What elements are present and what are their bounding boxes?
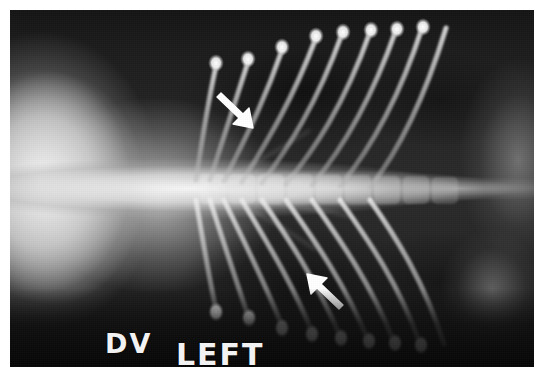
marker-dv: DV	[105, 328, 152, 359]
marker-left: LEFT	[176, 337, 265, 372]
radiograph-figure: DV LEFT down-right up-left DV	[0, 0, 543, 375]
film-grain	[10, 10, 534, 367]
film-area	[10, 10, 534, 367]
